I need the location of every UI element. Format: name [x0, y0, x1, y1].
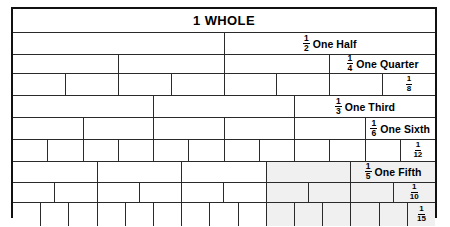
fraction-row-fifth: 15One Fifth	[13, 162, 435, 183]
fraction-label-fifteenth: 115	[416, 206, 427, 224]
fraction-cell-third-3: 13One Third	[295, 96, 435, 117]
fraction-cell-twelfth-2	[48, 140, 83, 161]
fraction-cell-twelfth-7	[225, 140, 260, 161]
fraction-cell-fifteenth-8	[210, 203, 238, 226]
fraction-cell-eighth-4	[172, 74, 225, 95]
fraction-cell-fifteenth-1	[13, 203, 41, 226]
fraction-glyph-twelfth: 112	[412, 141, 423, 159]
fraction-denominator-tenth: 10	[409, 193, 420, 201]
fraction-row-third: 13One Third	[13, 96, 435, 118]
fraction-cell-fifth-4-shaded	[267, 162, 352, 182]
fraction-glyph-third: 13	[335, 97, 342, 116]
fraction-cell-fifth-3	[182, 162, 267, 182]
fraction-cell-sixth-1	[13, 118, 84, 139]
fraction-cell-tenth-8-shaded	[309, 183, 351, 202]
fraction-row-tenth: 110	[13, 183, 435, 203]
fraction-cell-third-1	[13, 96, 154, 117]
fraction-cell-eighth-2	[66, 74, 119, 95]
fraction-cell-fifteenth-14-shaded	[380, 203, 408, 226]
fraction-label-twelfth: 112	[412, 142, 423, 160]
fraction-cell-eighth-5	[225, 74, 278, 95]
fraction-label-fifth: 15One Fifth	[365, 163, 422, 182]
fraction-denominator-quarter: 4	[347, 64, 354, 73]
fraction-denominator-eighth: 8	[406, 85, 412, 93]
fraction-glyph-fifteenth: 115	[416, 205, 427, 223]
fraction-cell-fifteenth-2	[41, 203, 69, 226]
fraction-name-sixth: One Sixth	[380, 123, 430, 135]
fraction-cell-twelfth-11	[366, 140, 401, 161]
fraction-cell-fifteenth-7	[182, 203, 210, 226]
fraction-label-eighth: 18	[406, 76, 412, 94]
fraction-wall: 1 WHOLE12One Half14One Quarter1813One Th…	[11, 7, 437, 218]
fraction-cell-fifteenth-10-shaded	[267, 203, 295, 226]
fraction-cell-fifth-1	[13, 162, 98, 182]
fraction-cell-fifteenth-15-shaded: 115	[408, 203, 435, 226]
fraction-row-fifteenth: 115	[13, 203, 435, 226]
fraction-label-half: 12One Half	[303, 34, 357, 53]
fraction-name-third: One Third	[345, 101, 395, 113]
fraction-cell-fifteenth-5	[126, 203, 154, 226]
fraction-label-sixth: 16One Sixth	[370, 119, 430, 138]
fraction-cell-sixth-3	[154, 118, 225, 139]
fraction-glyph-tenth: 110	[409, 183, 420, 201]
fraction-cell-eighth-3	[119, 74, 172, 95]
fraction-denominator-fifteenth: 15	[416, 215, 427, 223]
fraction-cell-sixth-4	[225, 118, 296, 139]
fraction-cell-tenth-6	[224, 183, 266, 202]
fraction-denominator-half: 2	[303, 44, 310, 53]
fraction-cell-fifteenth-9	[239, 203, 267, 226]
fraction-cell-fifteenth-12-shaded	[323, 203, 351, 226]
fraction-glyph-sixth: 16	[370, 119, 377, 138]
fraction-label-third: 13One Third	[335, 97, 395, 116]
fraction-cell-eighth-6	[277, 74, 330, 95]
fraction-cell-tenth-9-shaded	[351, 183, 393, 202]
fraction-numerator-half: 1	[303, 34, 310, 44]
fraction-glyph-eighth: 18	[406, 75, 412, 93]
whole-title-label: 1 WHOLE	[193, 13, 255, 28]
fraction-row-quarter: 14One Quarter	[13, 55, 435, 74]
fraction-cell-fifteenth-13-shaded	[351, 203, 379, 226]
fraction-glyph-quarter: 14	[347, 55, 354, 73]
fraction-denominator-twelfth: 12	[412, 151, 423, 159]
fraction-cell-half-1	[13, 33, 225, 54]
fraction-cell-eighth-8: 18	[383, 74, 435, 95]
fraction-cell-tenth-5	[182, 183, 224, 202]
fraction-label-quarter: 14One Quarter	[347, 55, 419, 73]
fraction-cell-twelfth-1	[13, 140, 48, 161]
fraction-cell-fifteenth-3	[69, 203, 97, 226]
fraction-cell-twelfth-9	[295, 140, 330, 161]
fraction-cell-fifth-2	[98, 162, 183, 182]
fraction-cell-sixth-6: 16One Sixth	[366, 118, 436, 139]
fraction-label-tenth: 110	[409, 184, 420, 202]
fraction-denominator-third: 3	[335, 107, 342, 116]
fraction-denominator-fifth: 5	[365, 172, 372, 181]
fraction-name-fifth: One Fifth	[375, 166, 422, 178]
fraction-numerator-third: 1	[335, 97, 342, 107]
fraction-numerator-sixth: 1	[370, 119, 377, 129]
fraction-row-whole: 1 WHOLE	[13, 9, 435, 33]
fraction-cell-twelfth-12: 112	[401, 140, 435, 161]
fraction-cell-tenth-1	[13, 183, 55, 202]
fraction-denominator-sixth: 6	[370, 129, 377, 138]
fraction-cell-tenth-3	[98, 183, 140, 202]
fraction-cell-quarter-2	[119, 55, 225, 73]
fraction-cell-twelfth-4	[119, 140, 154, 161]
fraction-cell-eighth-1	[13, 74, 66, 95]
fraction-cell-fifteenth-11-shaded	[295, 203, 323, 226]
fraction-cell-quarter-3	[225, 55, 331, 73]
fraction-cell-twelfth-5	[154, 140, 189, 161]
fraction-row-twelfth: 112	[13, 140, 435, 162]
fraction-cell-quarter-1	[13, 55, 119, 73]
fraction-cell-whole-1: 1 WHOLE	[13, 9, 435, 32]
fraction-name-quarter: One Quarter	[356, 58, 418, 70]
fraction-cell-fifteenth-4	[98, 203, 126, 226]
fraction-cell-eighth-7	[330, 74, 383, 95]
fraction-cell-twelfth-8	[260, 140, 295, 161]
fraction-row-eighth: 18	[13, 74, 435, 96]
fraction-glyph-fifth: 15	[365, 162, 372, 181]
fraction-cell-quarter-4: 14One Quarter	[330, 55, 435, 73]
fraction-cell-tenth-7-shaded	[267, 183, 309, 202]
fraction-glyph-half: 12	[303, 34, 310, 53]
fraction-cell-twelfth-3	[84, 140, 119, 161]
fraction-cell-tenth-10-shaded: 110	[394, 183, 435, 202]
